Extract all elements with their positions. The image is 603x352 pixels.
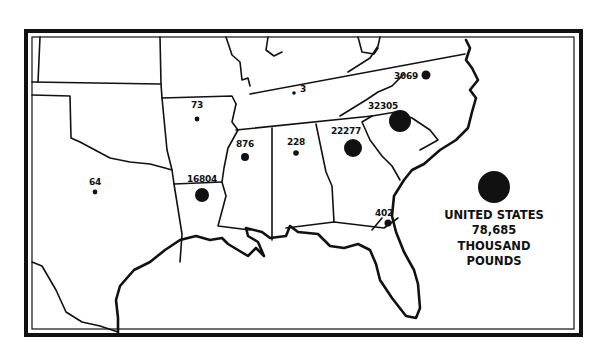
value-label-tennessee: 3 bbox=[300, 84, 306, 94]
legend-line-4: POUNDS bbox=[467, 254, 522, 268]
symbol-tennessee bbox=[292, 91, 296, 95]
value-label-florida: 402 bbox=[375, 208, 393, 218]
coastline bbox=[116, 40, 478, 335]
value-label-arkansas: 73 bbox=[191, 100, 203, 110]
proportional-symbol-map: 64 73 16804 876 228 3 22277 32305 3069 4… bbox=[0, 0, 603, 352]
value-label-mississippi: 876 bbox=[236, 139, 254, 149]
value-label-georgia: 22277 bbox=[331, 126, 361, 136]
value-label-louisiana: 16804 bbox=[187, 174, 217, 184]
state-alabama: 228 bbox=[287, 137, 305, 156]
symbol-georgia bbox=[344, 139, 362, 157]
state-arkansas: 73 bbox=[191, 100, 203, 121]
state-mississippi: 876 bbox=[236, 139, 254, 161]
state-south-carolina: 32305 bbox=[368, 101, 411, 132]
state-louisiana: 16804 bbox=[187, 174, 217, 202]
state-georgia: 22277 bbox=[331, 126, 362, 157]
legend-line-2: 78,685 bbox=[472, 223, 516, 237]
symbol-united-states-total bbox=[478, 171, 510, 203]
symbol-mississippi bbox=[241, 153, 249, 161]
legend-line-3: THOUSAND bbox=[458, 239, 531, 253]
legend-line-1: UNITED STATES bbox=[444, 208, 544, 222]
legend: UNITED STATES 78,685 THOUSAND POUNDS bbox=[444, 171, 544, 268]
state-texas: 64 bbox=[89, 177, 101, 194]
symbol-alabama bbox=[293, 150, 299, 156]
symbol-florida bbox=[385, 220, 392, 227]
symbol-north-carolina bbox=[422, 71, 431, 80]
symbol-arkansas bbox=[195, 117, 200, 122]
value-label-south-carolina: 32305 bbox=[368, 101, 398, 111]
value-label-texas: 64 bbox=[89, 177, 101, 187]
value-label-alabama: 228 bbox=[287, 137, 305, 147]
symbol-louisiana bbox=[195, 188, 209, 202]
symbol-texas bbox=[93, 190, 98, 195]
state-north-carolina: 3069 bbox=[394, 71, 430, 82]
symbol-south-carolina bbox=[389, 110, 411, 132]
value-label-north-carolina: 3069 bbox=[394, 71, 418, 81]
